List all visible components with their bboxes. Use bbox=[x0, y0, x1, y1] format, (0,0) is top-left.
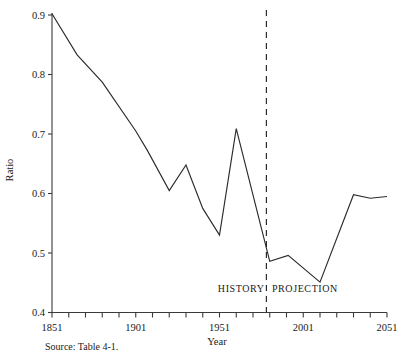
projection-label: PROJECTION bbox=[272, 283, 338, 294]
y-axis-title: Ratio bbox=[4, 159, 15, 182]
y-tick-label: 0.5 bbox=[32, 248, 45, 259]
y-tick-label: 0.7 bbox=[32, 129, 45, 140]
y-tick-label: 0.6 bbox=[32, 188, 45, 199]
y-tick-label: 0.4 bbox=[32, 307, 46, 318]
ratio-data-line bbox=[52, 14, 387, 282]
y-axis-ticks bbox=[48, 15, 52, 313]
history-label: HISTORY bbox=[218, 283, 265, 294]
x-tick-label: 2001 bbox=[293, 322, 314, 333]
y-axis-tick-labels: 0.40.50.60.70.80.9 bbox=[32, 10, 46, 319]
x-axis-title: Year bbox=[207, 336, 227, 347]
x-tick-label: 1851 bbox=[42, 322, 63, 333]
y-tick-label: 0.9 bbox=[32, 10, 45, 21]
x-tick-label: 2051 bbox=[377, 322, 398, 333]
y-tick-label: 0.8 bbox=[32, 69, 45, 80]
chart-canvas: 0.40.50.60.70.80.9 18511901195120012051 … bbox=[0, 0, 404, 357]
x-tick-label: 1951 bbox=[209, 322, 230, 333]
ratio-line-chart: 0.40.50.60.70.80.9 18511901195120012051 … bbox=[0, 0, 404, 357]
x-axis-ticks bbox=[52, 313, 387, 318]
x-axis-tick-labels: 18511901195120012051 bbox=[42, 322, 398, 333]
source-note: Source: Table 4-1. bbox=[45, 341, 118, 352]
x-tick-label: 1901 bbox=[125, 322, 146, 333]
axes-group bbox=[52, 13, 387, 313]
